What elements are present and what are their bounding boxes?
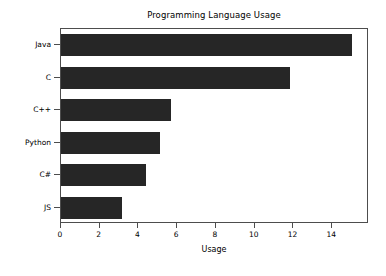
bar-js xyxy=(61,197,122,219)
y-tick-label-js: JS xyxy=(5,202,51,211)
y-tick-label-c: C xyxy=(5,72,51,81)
x-tick-mark xyxy=(176,223,177,228)
bar-c xyxy=(61,99,171,121)
x-tick-mark xyxy=(99,223,100,228)
y-tick-label-c: C# xyxy=(5,170,51,179)
y-tick-mark xyxy=(54,77,60,78)
x-tick-label-4: 4 xyxy=(127,230,147,239)
bar-python xyxy=(61,132,160,154)
x-tick-mark xyxy=(292,223,293,228)
x-tick-label-8: 8 xyxy=(205,230,225,239)
y-tick-mark xyxy=(54,142,60,143)
y-tick-mark xyxy=(54,207,60,208)
x-tick-label-14: 14 xyxy=(321,230,341,239)
x-tick-label-0: 0 xyxy=(50,230,70,239)
y-tick-label-python: Python xyxy=(5,137,51,146)
y-tick-mark xyxy=(54,109,60,110)
x-tick-mark xyxy=(215,223,216,228)
bar-java xyxy=(61,34,352,56)
x-tick-mark xyxy=(254,223,255,228)
plot-area xyxy=(60,28,368,223)
y-tick-label-java: Java xyxy=(5,40,51,49)
x-tick-mark xyxy=(331,223,332,228)
x-axis-label: Usage xyxy=(60,245,368,254)
bar-chart-figure: Programming Language Usage JavaCC++Pytho… xyxy=(0,0,386,276)
bar-c xyxy=(61,67,290,89)
y-tick-mark xyxy=(54,174,60,175)
x-tick-mark xyxy=(137,223,138,228)
bar-c xyxy=(61,164,146,186)
y-tick-label-c: C++ xyxy=(5,105,51,114)
bars-layer xyxy=(61,29,367,222)
x-tick-mark xyxy=(60,223,61,228)
x-tick-label-12: 12 xyxy=(282,230,302,239)
x-tick-label-2: 2 xyxy=(89,230,109,239)
y-tick-mark xyxy=(54,44,60,45)
x-tick-label-6: 6 xyxy=(166,230,186,239)
chart-title: Programming Language Usage xyxy=(60,10,368,20)
x-tick-label-10: 10 xyxy=(244,230,264,239)
